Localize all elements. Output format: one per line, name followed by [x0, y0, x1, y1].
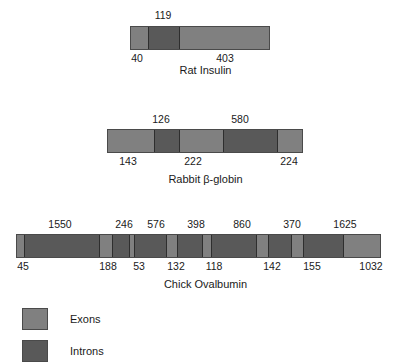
length-label: 1032	[359, 259, 382, 273]
length-label: 45	[17, 259, 29, 273]
segment-intron	[113, 234, 130, 258]
segment-intron	[178, 234, 203, 258]
segment-intron	[155, 129, 180, 153]
length-labels-top: 126580	[0, 112, 411, 126]
segment-intron	[269, 234, 292, 258]
length-label: 142	[263, 259, 281, 273]
length-labels-top: 119	[0, 8, 411, 22]
segment-intron	[135, 234, 167, 258]
segment-intron	[149, 26, 180, 50]
gene-caption: Chick Ovalbumin	[0, 278, 411, 290]
length-labels-bottom: 45188531321181421551032	[0, 259, 411, 273]
length-label: 188	[99, 259, 117, 273]
gene-bar	[107, 129, 303, 153]
gene-caption: Rabbit β-globin	[0, 173, 411, 185]
length-label: 40	[131, 51, 143, 65]
segment-exon	[257, 234, 269, 258]
length-label: 126	[152, 112, 170, 126]
length-labels-bottom: 143222224	[0, 154, 411, 168]
gene-bar	[16, 234, 381, 258]
segment-exon	[107, 129, 155, 153]
length-label: 143	[119, 154, 137, 168]
segment-exon	[203, 234, 212, 258]
length-labels-bottom: 40403	[0, 51, 411, 65]
legend-label: Exons	[70, 313, 101, 325]
length-label: 398	[187, 217, 205, 231]
gene-caption: Rat Insulin	[0, 64, 411, 76]
segment-intron	[212, 234, 257, 258]
segment-exon	[344, 234, 381, 258]
length-labels-top: 15502465763988603701625	[0, 217, 411, 231]
length-label: 576	[147, 217, 165, 231]
segment-exon	[292, 234, 304, 258]
length-label: 1625	[333, 217, 356, 231]
length-label: 224	[280, 154, 298, 168]
length-label: 1550	[48, 217, 71, 231]
length-label: 53	[133, 259, 145, 273]
segment-exon	[167, 234, 178, 258]
segment-exon	[130, 26, 149, 50]
legend-swatch-intron	[22, 340, 48, 362]
segment-intron	[25, 234, 100, 258]
legend-label: Introns	[70, 345, 104, 357]
segment-exon	[180, 26, 270, 50]
length-label: 403	[216, 51, 234, 65]
length-label: 370	[283, 217, 301, 231]
length-label: 132	[167, 259, 185, 273]
legend-item-exon: Exons	[22, 308, 101, 330]
length-label: 155	[303, 259, 321, 273]
segment-exon	[180, 129, 224, 153]
length-label: 119	[155, 8, 172, 22]
length-label: 580	[231, 112, 249, 126]
legend-swatch-exon	[22, 308, 48, 330]
segment-exon	[100, 234, 113, 258]
gene-bar	[130, 26, 270, 50]
length-label: 118	[206, 259, 223, 273]
segment-intron	[224, 129, 278, 153]
length-label: 860	[233, 217, 251, 231]
legend-item-intron: Introns	[22, 340, 104, 362]
segment-exon	[278, 129, 303, 153]
segment-exon	[16, 234, 25, 258]
segment-intron	[304, 234, 344, 258]
length-label: 246	[115, 217, 133, 231]
length-label: 222	[184, 154, 202, 168]
